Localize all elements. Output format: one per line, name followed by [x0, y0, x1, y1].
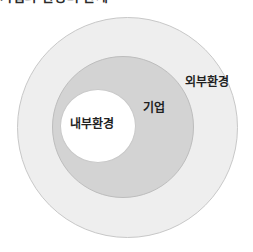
- clipped-caption-text: 기업과 환경의 관계: [0, 0, 150, 6]
- diagram-canvas: 기업과 환경의 관계 외부환경 기업 내부환경: [0, 0, 253, 252]
- company-label: 기업: [143, 101, 165, 115]
- outer-environment-label: 외부환경: [185, 75, 229, 89]
- internal-environment-label: 내부환경: [70, 117, 114, 131]
